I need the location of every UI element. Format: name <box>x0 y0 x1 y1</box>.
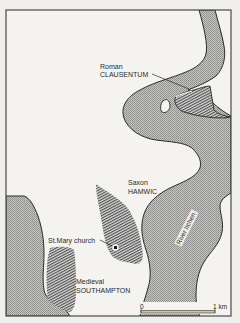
label-southampton-line1: Medieval <box>76 278 104 285</box>
label-hamwic-line2: HAMWIC <box>128 188 157 195</box>
label-clausentum-line1: Roman <box>100 63 123 70</box>
map-canvas: Roman CLAUSENTUM Saxon HAMWIC St.Mary ch… <box>0 0 240 323</box>
map: Roman CLAUSENTUM Saxon HAMWIC St.Mary ch… <box>0 0 240 323</box>
label-church: St.Mary church <box>48 237 95 245</box>
church-marker-icon <box>112 244 118 250</box>
label-clausentum-line2: CLAUSENTUM <box>100 71 148 78</box>
label-hamwic-line1: Saxon <box>128 179 148 186</box>
scale-start-label: 0 <box>140 303 144 310</box>
island <box>161 100 170 113</box>
label-southampton-line2: SOUTHAMPTON <box>76 287 130 294</box>
scale-bar: 0 1 km <box>138 302 227 314</box>
southampton-area <box>47 247 77 312</box>
